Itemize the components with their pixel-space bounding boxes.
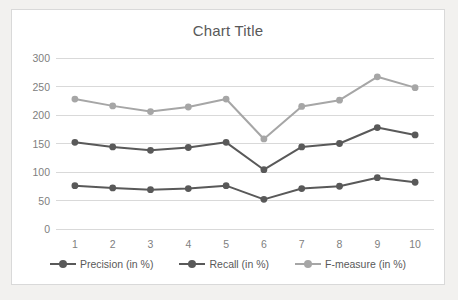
data-point[interactable] bbox=[412, 132, 419, 139]
data-point[interactable] bbox=[223, 96, 230, 103]
legend-marker-icon bbox=[179, 259, 205, 269]
y-tick-label: 50 bbox=[16, 195, 50, 207]
x-tick-label: 5 bbox=[223, 238, 229, 250]
y-tick-label: 0 bbox=[16, 223, 50, 235]
data-point[interactable] bbox=[374, 124, 381, 131]
x-tick-label: 1 bbox=[72, 238, 78, 250]
data-point[interactable] bbox=[374, 174, 381, 181]
data-point[interactable] bbox=[147, 147, 154, 154]
data-point[interactable] bbox=[185, 104, 192, 111]
data-point[interactable] bbox=[109, 144, 116, 151]
x-tick-label: 8 bbox=[337, 238, 343, 250]
legend-label: Recall (in %) bbox=[209, 258, 269, 270]
data-point[interactable] bbox=[147, 186, 154, 193]
data-point[interactable] bbox=[72, 139, 79, 146]
chart-container: Chart Title 050100150200250300 123456789… bbox=[11, 9, 445, 285]
data-point[interactable] bbox=[72, 182, 79, 189]
data-point[interactable] bbox=[336, 97, 343, 104]
data-point[interactable] bbox=[261, 166, 268, 173]
data-point[interactable] bbox=[336, 140, 343, 147]
legend-item-3[interactable]: F-measure (in %) bbox=[295, 258, 406, 270]
data-point[interactable] bbox=[147, 108, 154, 115]
data-point[interactable] bbox=[261, 196, 268, 203]
y-tick-label: 250 bbox=[16, 81, 50, 93]
chart-legend: Precision (in %)Recall (in %)F-measure (… bbox=[12, 258, 444, 270]
series-line-1 bbox=[75, 178, 415, 200]
data-point[interactable] bbox=[336, 183, 343, 190]
data-point[interactable] bbox=[374, 73, 381, 80]
x-tick-label: 9 bbox=[374, 238, 380, 250]
data-point[interactable] bbox=[412, 179, 419, 186]
data-point[interactable] bbox=[261, 136, 268, 143]
data-point[interactable] bbox=[72, 96, 79, 103]
legend-item-1[interactable]: Precision (in %) bbox=[50, 258, 154, 270]
data-point[interactable] bbox=[223, 182, 230, 189]
x-tick-label: 4 bbox=[185, 238, 191, 250]
y-tick-label: 300 bbox=[16, 52, 50, 64]
data-point[interactable] bbox=[298, 144, 305, 151]
legend-marker-icon bbox=[50, 259, 76, 269]
legend-label: Precision (in %) bbox=[80, 258, 154, 270]
data-point[interactable] bbox=[298, 103, 305, 110]
legend-label: F-measure (in %) bbox=[325, 258, 406, 270]
x-tick-label: 7 bbox=[299, 238, 305, 250]
series-line-2 bbox=[75, 128, 415, 170]
data-point[interactable] bbox=[412, 84, 419, 91]
data-point[interactable] bbox=[185, 185, 192, 192]
data-point[interactable] bbox=[185, 144, 192, 151]
x-tick-label: 10 bbox=[409, 238, 421, 250]
y-tick-label: 200 bbox=[16, 109, 50, 121]
x-tick-label: 2 bbox=[110, 238, 116, 250]
legend-marker-icon bbox=[295, 259, 321, 269]
x-tick-label: 6 bbox=[261, 238, 267, 250]
y-tick-label: 150 bbox=[16, 138, 50, 150]
data-point[interactable] bbox=[298, 185, 305, 192]
x-tick-label: 3 bbox=[148, 238, 154, 250]
data-point[interactable] bbox=[109, 102, 116, 109]
y-tick-label: 100 bbox=[16, 166, 50, 178]
legend-item-2[interactable]: Recall (in %) bbox=[179, 258, 269, 270]
data-point[interactable] bbox=[223, 139, 230, 146]
data-point[interactable] bbox=[109, 185, 116, 192]
